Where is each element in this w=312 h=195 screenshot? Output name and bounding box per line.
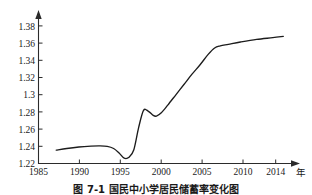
x-tick-marks <box>39 160 276 164</box>
y-tick-label: 1.32 <box>18 73 35 83</box>
x-tick-label: 2005 <box>193 167 212 177</box>
y-tick-label: 1.38 <box>18 22 35 32</box>
chart-figure: 1.22 1.24 1.26 1.28 1.3 1.32 1.34 1.36 1… <box>0 0 312 195</box>
figure-caption: 图 7-1 国民中小学居民储蓄率变化图 <box>0 184 312 195</box>
x-tick-label: 2010 <box>234 167 253 177</box>
y-axis <box>35 10 41 164</box>
x-tick-labels: 1985 1990 1995 2000 2005 2010 2014 <box>29 167 285 177</box>
x-axis <box>39 160 301 166</box>
x-tick-label: 1985 <box>29 167 48 177</box>
y-tick-label: 1.34 <box>18 56 35 66</box>
x-axis-arrow-icon <box>291 160 300 166</box>
y-tick-label: 1.24 <box>18 142 35 152</box>
x-tick-label: 2000 <box>152 167 171 177</box>
y-tick-label: 1.26 <box>18 125 35 135</box>
y-axis-arrow-icon <box>35 10 41 19</box>
series-line-0 <box>56 36 283 158</box>
y-tick-label: 1.28 <box>18 108 35 118</box>
y-tick-labels: 1.22 1.24 1.26 1.28 1.3 1.32 1.34 1.36 1… <box>18 22 35 170</box>
y-tick-label: 1.36 <box>18 39 35 49</box>
x-tick-label: 1995 <box>111 167 130 177</box>
y-tick-label: 1.3 <box>23 90 35 100</box>
x-tick-label: 2014 <box>266 167 285 177</box>
x-axis-label: 年 <box>296 167 306 178</box>
line-chart-plot: 1.22 1.24 1.26 1.28 1.3 1.32 1.34 1.36 1… <box>0 0 312 180</box>
y-tick-marks <box>39 26 43 164</box>
x-tick-label: 1990 <box>70 167 89 177</box>
